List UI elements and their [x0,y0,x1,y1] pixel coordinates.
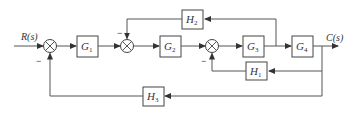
block-g3: G3 [243,36,264,57]
minus-sign: − [201,56,206,66]
summing-junction-1: − [36,40,57,67]
summing-junction-3: − [201,40,219,67]
output-label: C(s) [326,32,344,44]
minus-sign: − [36,56,41,66]
block-g1: G1 [77,36,98,57]
block-g4: G4 [292,36,313,57]
minus-sign: − [117,28,122,38]
input-label: R(s) [20,31,38,43]
feedback-path-h3: H3 [50,54,322,107]
block-g2: G2 [160,36,181,57]
block-diagram: R(s) − G1 − G2 − G3 [0,0,357,113]
input-signal: R(s) [14,31,43,46]
summing-junction-2: − [117,28,134,53]
output-signal: C(s) [313,32,344,46]
